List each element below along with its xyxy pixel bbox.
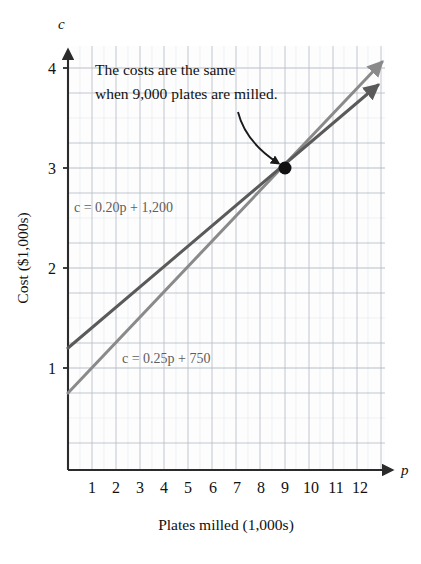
y-tick-label-1: 1	[48, 360, 56, 377]
y-tick-label-4: 4	[48, 60, 56, 77]
x-tick-label-4: 4	[160, 479, 168, 496]
equation-label-lower: c = 0.25p + 750	[122, 351, 211, 366]
x-tick-label-6: 6	[209, 479, 217, 496]
chart-svg: c p 4 3 2 1 1 2 3 4 5 6 7 8 9 10 11 12 T…	[0, 0, 421, 564]
x-tick-label-2: 2	[112, 479, 120, 496]
y-axis-title: Cost ($1,000s)	[14, 212, 32, 303]
y-tick-label-2: 2	[48, 260, 56, 277]
y-axis-variable-label: c	[58, 16, 65, 32]
equation-label-upper: c = 0.20p + 1,200	[74, 200, 173, 215]
annotation-line-2: when 9,000 plates are milled.	[95, 85, 278, 102]
x-tick-label-1: 1	[88, 479, 96, 496]
x-tick-label-10: 10	[303, 479, 319, 496]
intersection-point-marker	[279, 162, 292, 175]
x-tick-label-5: 5	[184, 479, 192, 496]
x-tick-label-8: 8	[257, 479, 265, 496]
chart-figure: c p 4 3 2 1 1 2 3 4 5 6 7 8 9 10 11 12 T…	[0, 0, 421, 564]
x-tick-label-11: 11	[328, 479, 343, 496]
x-tick-label-7: 7	[233, 479, 241, 496]
x-tick-label-9: 9	[281, 479, 289, 496]
x-tick-label-12: 12	[352, 479, 368, 496]
x-tick-label-3: 3	[136, 479, 144, 496]
y-tick-label-3: 3	[48, 160, 56, 177]
x-axis-variable-label: p	[400, 462, 409, 478]
annotation-line-1: The costs are the same	[95, 61, 235, 78]
x-axis-title: Plates milled (1,000s)	[158, 516, 294, 534]
